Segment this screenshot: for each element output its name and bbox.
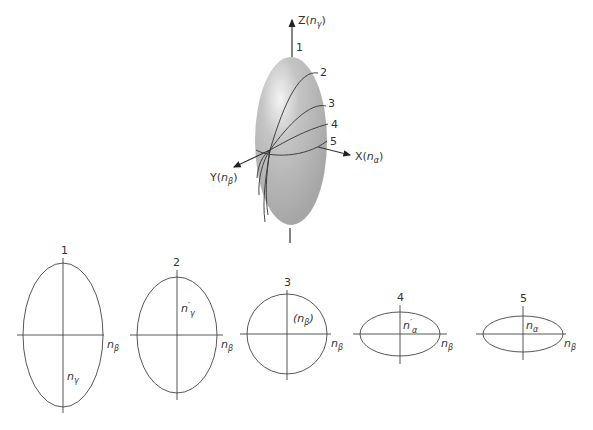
z-axis-label: Z(nγ) (298, 14, 326, 29)
section-1-number: 1 (61, 244, 68, 257)
section-3-inner-label: (nβ) (293, 312, 314, 327)
ellipsoid-label-2: 2 (320, 66, 327, 79)
ellipsoid-label-5: 5 (330, 135, 337, 148)
section-2: 2 nβ n′γ (130, 256, 233, 400)
section-3-number: 3 (284, 276, 291, 289)
x-axis-label: X(nα) (355, 150, 383, 165)
section-1-inner-label: nγ (67, 370, 80, 385)
section-4: 4 nβ n′α (353, 291, 453, 364)
section-5: 5 nβ nα (476, 292, 576, 360)
section-2-inner-label: n′γ (181, 301, 196, 318)
ellipsoid-label-3: 3 (328, 97, 335, 110)
section-1: 1 nβ nγ (17, 244, 119, 413)
section-2-number: 2 (173, 256, 180, 269)
section-4-inner-label: n′α (403, 318, 418, 335)
section-5-number: 5 (520, 292, 527, 305)
ellipsoid-body (255, 57, 327, 225)
section-3-side-label: nβ (331, 337, 343, 352)
ellipsoid-label-4: 4 (331, 118, 338, 131)
ellipsoid-3d: Z(nγ) X(nα) Y(nβ) 1 2 3 4 5 (209, 14, 383, 243)
section-3: 3 nβ (nβ) (240, 276, 343, 380)
ellipsoid-label-1: 1 (296, 41, 303, 54)
section-2-side-label: nβ (221, 338, 233, 353)
section-5-inner-label: nα (526, 319, 539, 334)
indicatrix-diagram: Z(nγ) X(nα) Y(nβ) 1 2 3 4 5 1 nβ nγ 2 nβ… (0, 0, 593, 430)
section-5-side-label: nβ (564, 337, 576, 352)
section-4-side-label: nβ (441, 337, 453, 352)
y-axis-label: Y(nβ) (209, 171, 237, 186)
section-4-number: 4 (397, 291, 404, 304)
section-1-side-label: nβ (107, 338, 119, 353)
